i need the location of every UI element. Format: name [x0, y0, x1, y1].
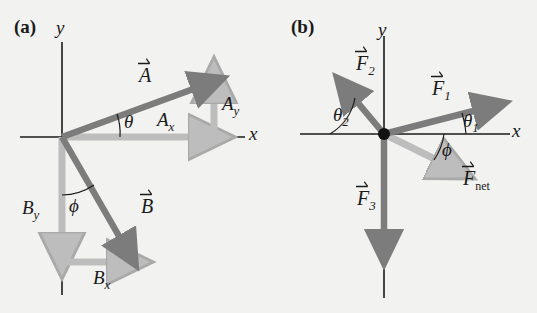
- vector-F3-label: F 3: [357, 188, 376, 212]
- vector-F1-label: F 1: [432, 78, 451, 102]
- panel-a-y-axis-label: y: [56, 18, 64, 37]
- angle-theta1-base: θ: [463, 110, 472, 131]
- vector-Fnet-label: F net: [463, 168, 490, 192]
- component-Ax-base: A: [157, 109, 169, 130]
- panel-b-x-axis-label: x: [512, 121, 520, 140]
- component-By-sub: y: [34, 207, 40, 222]
- vector-Fnet-base: F: [463, 167, 475, 189]
- angle-theta2-label: θ2: [333, 105, 349, 128]
- panel-b-group: [300, 36, 510, 298]
- component-Ay-sub: y: [234, 103, 240, 118]
- angle-phi-a-label: ϕ: [69, 196, 79, 215]
- vector-B-label: B: [141, 196, 153, 216]
- component-Ax-label: Ax: [157, 110, 174, 133]
- vector-F2-label: F 2: [356, 53, 375, 77]
- component-Ax-sub: x: [169, 119, 175, 134]
- angle-theta2-base: θ: [333, 104, 342, 125]
- angle-phi-b-label: ϕ: [442, 140, 452, 159]
- component-By-base: B: [22, 197, 34, 218]
- panel-a-x-axis-label: x: [249, 124, 257, 143]
- vector-F3-sub: 3: [369, 198, 376, 213]
- component-Bx-sub: x: [105, 277, 111, 292]
- vector-F2-base: F: [356, 52, 368, 74]
- physics-vector-figure: (a) y x A B Ax Ay Bx By θ ϕ (b) y x: [0, 0, 537, 313]
- angle-theta1-label: θ1: [463, 111, 479, 134]
- vector-F3-base: F: [357, 187, 369, 209]
- component-By-label: By: [22, 198, 39, 221]
- vector-B: [62, 137, 127, 250]
- vector-F2-sub: 2: [368, 63, 375, 78]
- vector-A-label: A: [139, 65, 151, 85]
- origin-dot: [378, 128, 390, 140]
- component-Bx-label: Bx: [93, 268, 110, 291]
- panel-b-y-axis-label: y: [378, 20, 386, 39]
- angle-theta1-sub: 1: [472, 120, 479, 135]
- panel-a-group: [20, 42, 245, 295]
- vector-A-symbol: A: [139, 64, 151, 86]
- vector-F2: [348, 91, 384, 134]
- figure-canvas: [0, 0, 537, 313]
- angle-theta-label: θ: [124, 112, 133, 131]
- panel-b-tag: (b): [291, 17, 314, 36]
- component-Ay-label: Ay: [222, 94, 239, 117]
- panel-a-tag: (a): [14, 17, 36, 36]
- vector-F1-base: F: [432, 77, 444, 99]
- vector-B-symbol: B: [141, 195, 153, 217]
- component-Bx-base: B: [93, 267, 105, 288]
- vector-Fnet-sub: net: [475, 179, 490, 193]
- component-Ay-base: A: [222, 93, 234, 114]
- angle-theta2-sub: 2: [342, 114, 349, 129]
- vector-A: [62, 84, 207, 137]
- vector-F1-sub: 1: [444, 88, 451, 103]
